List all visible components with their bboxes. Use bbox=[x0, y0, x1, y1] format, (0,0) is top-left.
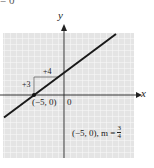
x-axis-label: x bbox=[141, 87, 146, 99]
rise-label: +3 bbox=[22, 80, 31, 89]
caption-prefix: (−5, 0), m = bbox=[72, 128, 115, 138]
run-label: +4 bbox=[43, 67, 52, 76]
slope-fraction: 3 4 bbox=[117, 125, 121, 140]
y-axis-arrow-icon bbox=[61, 24, 67, 31]
caption: (−5, 0), m = 3 4 bbox=[72, 125, 121, 140]
y-axis-label: y bbox=[58, 9, 63, 21]
point-label: (−5, 0) bbox=[32, 97, 57, 107]
slope-denominator: 4 bbox=[117, 133, 121, 140]
origin-label: 0 bbox=[67, 97, 72, 107]
